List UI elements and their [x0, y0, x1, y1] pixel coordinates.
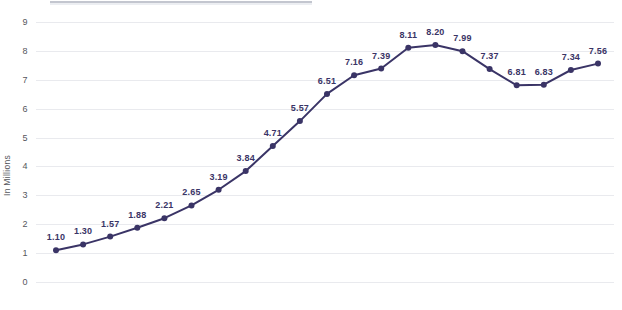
data-point-2001[interactable]: [568, 67, 574, 73]
value-label-1911: 7.16: [345, 57, 363, 67]
y-tick-label-5: 5: [0, 133, 28, 143]
data-point-1911[interactable]: [351, 72, 357, 78]
gridline-0: [36, 282, 614, 283]
y-tick-label-3: 3: [0, 190, 28, 200]
data-point-1961[interactable]: [460, 48, 466, 54]
data-point-1891[interactable]: [297, 118, 303, 124]
line-series-svg: [36, 22, 614, 282]
data-point-1921[interactable]: [378, 66, 384, 72]
value-label-1921: 7.39: [372, 51, 390, 61]
value-label-2006: 7.56: [589, 46, 607, 56]
y-tick-label-8: 8: [0, 46, 28, 56]
data-point-1981[interactable]: [514, 82, 520, 88]
value-label-1811: 1.30: [74, 226, 92, 236]
value-label-1991: 6.83: [535, 67, 553, 77]
value-label-1891: 5.57: [291, 103, 309, 113]
data-point-1861[interactable]: [216, 187, 222, 193]
data-point-1881[interactable]: [270, 143, 276, 149]
plot-area: 0123456789 1.101.301.571.882.212.653.193…: [36, 22, 614, 282]
data-point-1841[interactable]: [161, 215, 167, 221]
value-label-1961: 7.99: [453, 33, 471, 43]
data-point-1901[interactable]: [324, 91, 330, 97]
data-point-1821[interactable]: [107, 234, 113, 240]
data-point-1831[interactable]: [134, 225, 140, 231]
y-tick-label-1: 1: [0, 248, 28, 258]
value-label-1871: 3.84: [237, 153, 255, 163]
value-label-1851: 2.65: [182, 187, 200, 197]
y-tick-label-4: 4: [0, 161, 28, 171]
value-label-1861: 3.19: [209, 172, 227, 182]
value-label-1821: 1.57: [101, 219, 119, 229]
value-label-2001: 7.34: [562, 52, 580, 62]
data-point-1871[interactable]: [243, 168, 249, 174]
value-label-1901: 6.51: [318, 76, 336, 86]
y-tick-label-2: 2: [0, 219, 28, 229]
chart-page: In Millions 0123456789 1.101.301.571.882…: [0, 0, 622, 310]
value-label-1981: 6.81: [508, 67, 526, 77]
data-point-1991[interactable]: [541, 82, 547, 88]
data-point-1931[interactable]: [405, 45, 411, 51]
data-point-1851[interactable]: [189, 202, 195, 208]
value-label-1931: 8.11: [399, 30, 417, 40]
top-divider-shadow: [50, 3, 312, 5]
y-tick-label-6: 6: [0, 104, 28, 114]
value-label-1831: 1.88: [128, 210, 146, 220]
data-point-1951[interactable]: [432, 42, 438, 48]
value-label-1971: 7.37: [480, 51, 498, 61]
data-point-1971[interactable]: [487, 66, 493, 72]
data-point-2006[interactable]: [595, 61, 601, 67]
y-tick-label-9: 9: [0, 17, 28, 27]
y-tick-label-7: 7: [0, 75, 28, 85]
value-label-1951: 8.20: [426, 27, 444, 37]
data-point-1811[interactable]: [80, 241, 86, 247]
data-point-1801[interactable]: [53, 247, 59, 253]
value-label-1881: 4.71: [264, 128, 282, 138]
value-label-1841: 2.21: [155, 200, 173, 210]
y-tick-label-0: 0: [0, 277, 28, 287]
value-label-1801: 1.10: [47, 232, 65, 242]
